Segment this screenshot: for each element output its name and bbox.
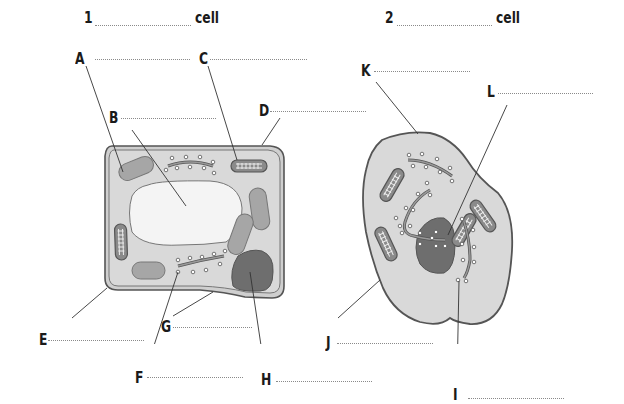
label-a-answer-blank[interactable] [95, 59, 190, 60]
mitochondrion [114, 224, 127, 260]
label-h-answer-blank[interactable] [276, 381, 372, 382]
label-f-answer-blank[interactable] [147, 377, 243, 378]
label-l: L [487, 84, 495, 100]
label-d: D [259, 103, 269, 119]
animal-cell [363, 132, 512, 324]
plant-nucleus [232, 250, 273, 291]
label-c: C [199, 51, 208, 67]
title-1-number: 1 [84, 10, 93, 26]
label-k: K [361, 63, 371, 79]
label-i-answer-blank[interactable] [468, 398, 564, 399]
label-l-answer-blank[interactable] [498, 93, 593, 94]
mitochondrion [231, 160, 267, 172]
leader-line-g [173, 292, 213, 316]
plant-vacuole [130, 181, 243, 245]
title-2-number: 2 [385, 10, 394, 26]
chloroplast [132, 262, 165, 279]
leader-line-e [72, 288, 107, 318]
leader-line-j [338, 280, 380, 318]
label-f: F [135, 370, 143, 386]
label-a: A [75, 51, 85, 67]
leader-line-d [262, 118, 280, 145]
label-e-answer-blank[interactable] [48, 340, 144, 341]
label-e: E [39, 332, 47, 348]
label-c-answer-blank[interactable] [210, 59, 307, 60]
label-k-answer-blank[interactable] [374, 71, 470, 72]
title-2-cell-word: cell [496, 10, 520, 26]
label-b-answer-blank[interactable] [121, 118, 216, 119]
label-d-answer-blank[interactable] [270, 111, 366, 112]
label-j: J [326, 335, 331, 351]
label-j-answer-blank[interactable] [337, 343, 433, 344]
title-2-answer-blank[interactable] [397, 25, 492, 26]
plant-cell [105, 146, 284, 298]
label-h: H [261, 372, 271, 388]
label-g-answer-blank[interactable] [173, 327, 252, 328]
label-b: B [109, 110, 118, 126]
label-g: G [161, 319, 171, 335]
label-i: I [453, 387, 458, 403]
title-1-cell-word: cell [195, 10, 219, 26]
leader-line-k [376, 82, 418, 134]
title-1-answer-blank[interactable] [95, 25, 191, 26]
